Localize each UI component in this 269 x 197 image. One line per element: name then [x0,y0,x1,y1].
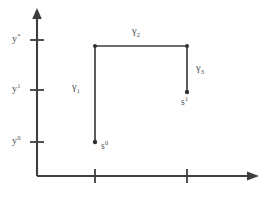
y-axis-label-y-star: y* [12,34,21,44]
point-label-s1: s1 [181,98,188,108]
point-s1-marker [185,90,189,94]
point-corner-upper-left-marker [93,44,97,48]
y-axis-label-y-one: y1 [12,84,21,94]
y-axis-label-y-zero: y0 [12,136,21,146]
segment-label-gamma1: γ1 [72,82,80,93]
segment-label-gamma2: γ2 [132,26,140,37]
point-s0-marker [93,140,97,144]
x-axis-arrowhead-icon [247,171,259,180]
segment-label-gamma3: γ3 [196,63,204,74]
point-corner-upper-right-marker [185,44,189,48]
point-label-s0: s0 [101,142,108,152]
y-axis-arrowhead-icon [32,8,42,19]
figure-root: y* y1 y0 γ1 γ2 γ3 s0 s1 [0,0,269,197]
